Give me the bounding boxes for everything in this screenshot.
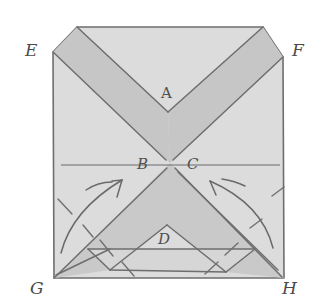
label-point-d: D: [158, 232, 170, 247]
label-point-c: C: [187, 157, 198, 172]
label-corner-f: F: [292, 42, 304, 59]
label-point-a: A: [161, 86, 172, 101]
label-corner-g: G: [30, 280, 44, 297]
label-point-b: B: [137, 157, 148, 172]
label-corner-h: H: [282, 280, 297, 297]
diagram-drawing: [0, 0, 323, 308]
label-corner-e: E: [25, 42, 37, 59]
